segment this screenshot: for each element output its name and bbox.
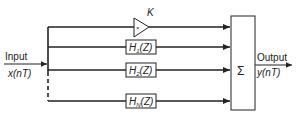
filter-block-hn: HN(Z) bbox=[126, 94, 156, 108]
svg-text:×: × bbox=[136, 25, 140, 31]
filter-block-h2: H2(Z) bbox=[126, 63, 156, 77]
summer-block: Σ bbox=[231, 16, 255, 110]
svg-text:HN(Z): HN(Z) bbox=[129, 96, 153, 108]
output-label: Output bbox=[257, 52, 287, 63]
output-signal: y(nT) bbox=[256, 67, 280, 78]
filter-block-h1: H1(Z) bbox=[126, 40, 156, 54]
parallel-filter-diagram: Input x(nT) × K H1(Z) H2(Z) HN(Z) Σ Outp… bbox=[0, 0, 296, 119]
input-signal: x(nT) bbox=[7, 68, 31, 79]
svg-text:K: K bbox=[147, 7, 155, 18]
svg-text:Σ: Σ bbox=[237, 64, 244, 78]
input-label: Input bbox=[5, 51, 27, 62]
svg-text:H1(Z): H1(Z) bbox=[129, 42, 152, 54]
gain-block: × K bbox=[134, 7, 155, 37]
svg-text:H2(Z): H2(Z) bbox=[129, 65, 152, 77]
